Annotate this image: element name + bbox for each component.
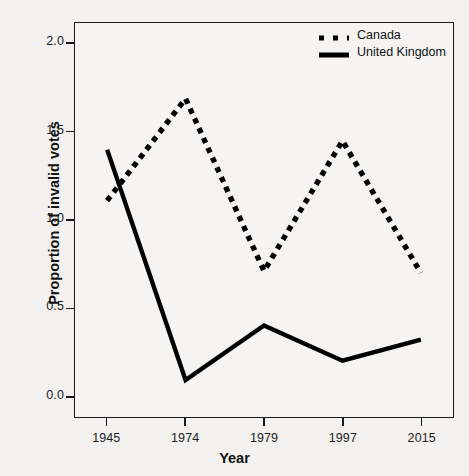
series-layer (107, 99, 421, 380)
plot-area (74, 22, 454, 418)
y-tick-mark (66, 219, 74, 221)
x-tick-mark (263, 418, 265, 426)
dotted-line-swatch (318, 30, 350, 42)
solid-line-swatch (318, 47, 350, 59)
x-tick-label: 1979 (250, 431, 278, 445)
x-tick-label: 1945 (92, 431, 120, 445)
x-tick-mark (421, 418, 423, 426)
y-tick-label: 2.0 (46, 34, 64, 48)
y-tick-label: 0.0 (46, 388, 64, 402)
legend-entry-united-kingdom: United Kingdom (318, 45, 446, 60)
x-tick-label: 1974 (171, 431, 199, 445)
series-line-canada (107, 99, 421, 273)
legend-label: Canada (357, 29, 401, 42)
y-tick-mark (66, 131, 74, 133)
plot-svg (75, 23, 453, 417)
y-tick-mark (66, 396, 74, 398)
y-tick-mark (66, 42, 74, 44)
x-tick-mark (184, 418, 186, 426)
legend-label: United Kingdom (357, 46, 446, 59)
y-axis-title: Proportion of invalid votes (46, 63, 62, 363)
chart-legend: CanadaUnited Kingdom (318, 28, 446, 60)
x-tick-label: 1997 (329, 431, 357, 445)
x-tick-mark (342, 418, 344, 426)
chart-figure: 0.00.51.01.52.0 19451974197919972015 Can… (0, 0, 469, 476)
y-tick-mark (66, 308, 74, 310)
x-tick-mark (106, 418, 108, 426)
x-axis-title: Year (0, 450, 469, 466)
x-tick-label: 2015 (408, 431, 436, 445)
legend-entry-canada: Canada (318, 28, 446, 43)
